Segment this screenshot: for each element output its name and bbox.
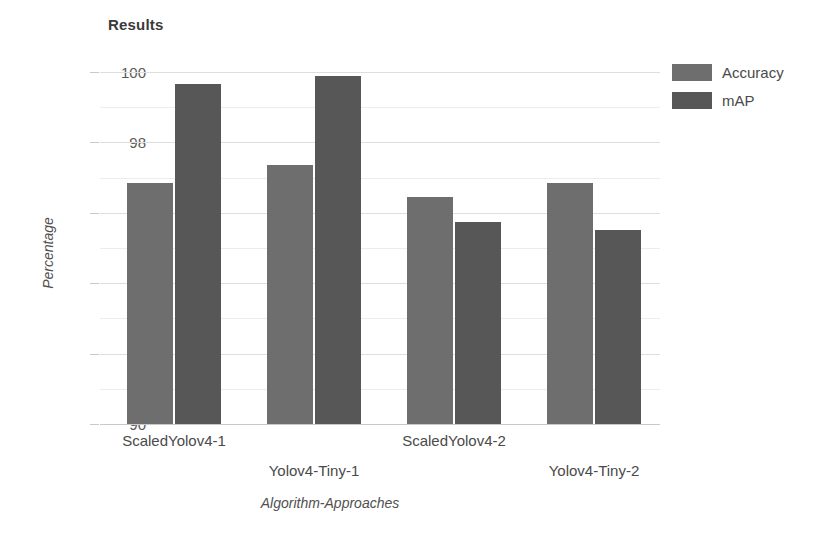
bar-accuracy-yolov4-tiny-1[interactable]: [267, 165, 313, 424]
y-axis-tick-mark: [90, 354, 99, 355]
legend-label: Accuracy: [722, 64, 784, 81]
bar-accuracy-scaledyolov4-1[interactable]: [127, 183, 173, 424]
bar-group: [127, 72, 221, 424]
x-axis-tick-label: Yolov4-Tiny-2: [549, 462, 640, 479]
legend-swatch-map: [672, 92, 712, 109]
chart-title: Results: [108, 16, 164, 33]
x-axis-tick-label: ScaledYolov4-2: [402, 432, 506, 449]
legend-swatch-accuracy: [672, 64, 712, 81]
x-axis-baseline: [100, 424, 660, 425]
x-axis-tick-label: ScaledYolov4-1: [122, 432, 226, 449]
bar-map-yolov4-tiny-1[interactable]: [315, 76, 361, 424]
bar-group: [267, 72, 361, 424]
y-axis-tick-mark: [90, 72, 99, 73]
y-axis-tick-mark: [90, 283, 99, 284]
bar-chart: Results Percentage 9092949698100 ScaledY…: [0, 0, 818, 540]
bar-map-scaledyolov4-2[interactable]: [455, 222, 501, 424]
bar-accuracy-scaledyolov4-2[interactable]: [407, 197, 453, 424]
x-axis-tick-label: Yolov4-Tiny-1: [269, 462, 360, 479]
bar-map-scaledyolov4-1[interactable]: [175, 84, 221, 424]
y-axis-title: Percentage: [40, 193, 56, 313]
y-axis-tick-mark: [90, 213, 99, 214]
legend-item-accuracy[interactable]: Accuracy: [672, 64, 784, 81]
bar-map-yolov4-tiny-2[interactable]: [595, 230, 641, 424]
legend-item-map[interactable]: mAP: [672, 92, 784, 109]
x-axis-title: Algorithm-Approaches: [0, 495, 660, 511]
plot-area: [100, 72, 660, 424]
bar-group: [407, 72, 501, 424]
legend-label: mAP: [722, 92, 755, 109]
y-axis-tick-mark: [90, 424, 99, 425]
bar-group: [547, 72, 641, 424]
y-axis-tick-mark: [90, 142, 99, 143]
bar-accuracy-yolov4-tiny-2[interactable]: [547, 183, 593, 424]
chart-legend: AccuracymAP: [672, 64, 784, 120]
